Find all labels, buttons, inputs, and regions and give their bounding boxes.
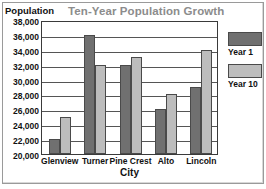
bar-glenview-year-1 xyxy=(49,139,60,154)
bar-lincoln-year-1 xyxy=(190,87,201,154)
y-axis-tick-label: 30,000 xyxy=(13,77,39,86)
y-axis-tick-label: 34,000 xyxy=(13,47,39,56)
legend-label-year-1: Year 1 xyxy=(228,47,264,58)
x-axis-tick-label: Pine Crest xyxy=(109,156,151,166)
chart-screenshot: Ten-Year Population Growth Population 38… xyxy=(0,0,266,189)
bar-pine-crest-year-10 xyxy=(131,57,142,154)
y-axis-tick-label: 20,000 xyxy=(13,152,39,161)
x-axis-title: City xyxy=(41,167,218,179)
y-axis-tick-label: 24,000 xyxy=(13,122,39,131)
x-axis-tick-label: Lincoln xyxy=(186,156,216,166)
plot-area: 38,00036,00034,00032,00030,00028,00026,0… xyxy=(41,21,218,155)
bar-turner-year-10 xyxy=(95,65,106,154)
bar-alto-year-1 xyxy=(155,109,166,154)
x-axis-tick-label: Alto xyxy=(158,156,175,166)
bar-turner-year-1 xyxy=(84,35,95,154)
legend-entry-year-10: Year 10 xyxy=(228,64,264,90)
bar-alto-year-10 xyxy=(166,94,177,154)
bar-pine-crest-year-1 xyxy=(120,65,131,154)
x-axis-tick-label: Glenview xyxy=(41,156,78,166)
y-axis-tick-label: 28,000 xyxy=(13,92,39,101)
chart-legend: Year 1 Year 10 xyxy=(228,32,264,96)
legend-entry-year-1: Year 1 xyxy=(228,32,264,58)
x-axis-tick-label: Turner xyxy=(82,156,108,166)
chart-title: Ten-Year Population Growth xyxy=(68,4,228,18)
y-axis-tick-label: 32,000 xyxy=(13,62,39,71)
y-axis-tick-label: 36,000 xyxy=(13,32,39,41)
light-gray-swatch xyxy=(228,64,262,78)
y-axis-title: Population xyxy=(5,5,54,16)
bars-layer xyxy=(42,22,217,154)
legend-label-year-10: Year 10 xyxy=(228,79,264,90)
y-axis-tick-label: 22,000 xyxy=(13,137,39,146)
y-axis-tick-label: 26,000 xyxy=(13,107,39,116)
y-axis-tick-label: 38,000 xyxy=(13,18,39,27)
bar-lincoln-year-10 xyxy=(201,50,212,154)
bar-glenview-year-10 xyxy=(60,117,71,154)
dark-gray-swatch xyxy=(228,32,262,46)
